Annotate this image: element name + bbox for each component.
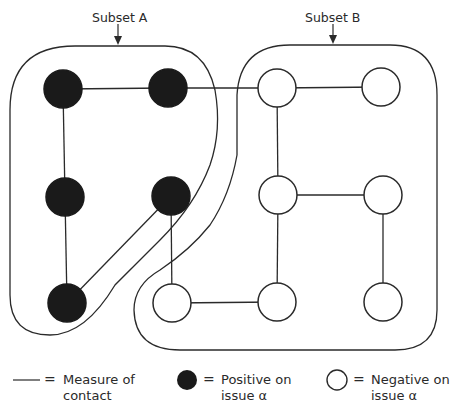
positive-node [46,178,84,216]
negative-node [258,283,296,321]
subset-b-arrow [329,24,337,44]
network-diagram [0,0,454,416]
negative-node [364,176,402,214]
legend-positive-text-1: Positive on [221,372,291,387]
negative-node [364,283,402,321]
negative-node [362,68,400,106]
positive-node [152,177,190,215]
legend-line-text-2: contact [63,388,112,403]
negative-node [258,69,296,107]
subset-a-arrow [114,24,122,45]
positive-node [149,69,187,107]
legend-positive-icon [177,370,197,390]
legend-negative-text-2: issue α [371,388,417,403]
legend-negative-eq: = [353,371,365,387]
legend-positive-eq: = [203,371,215,387]
subset-b-label: Subset B [305,10,360,25]
negative-node [153,284,191,322]
subset-a-label: Subset A [92,10,147,25]
positive-node [48,284,86,322]
positive-node [44,70,82,108]
contact-edges [63,87,383,303]
contact-edge [67,196,171,303]
legend-line-eq: = [44,371,56,387]
legend-positive-text-2: issue α [221,388,267,403]
legend-negative-text-1: Negative on [371,372,450,387]
legend-negative-icon [327,370,347,390]
negative-node [259,176,297,214]
legend-line-text-1: Measure of [63,372,135,387]
